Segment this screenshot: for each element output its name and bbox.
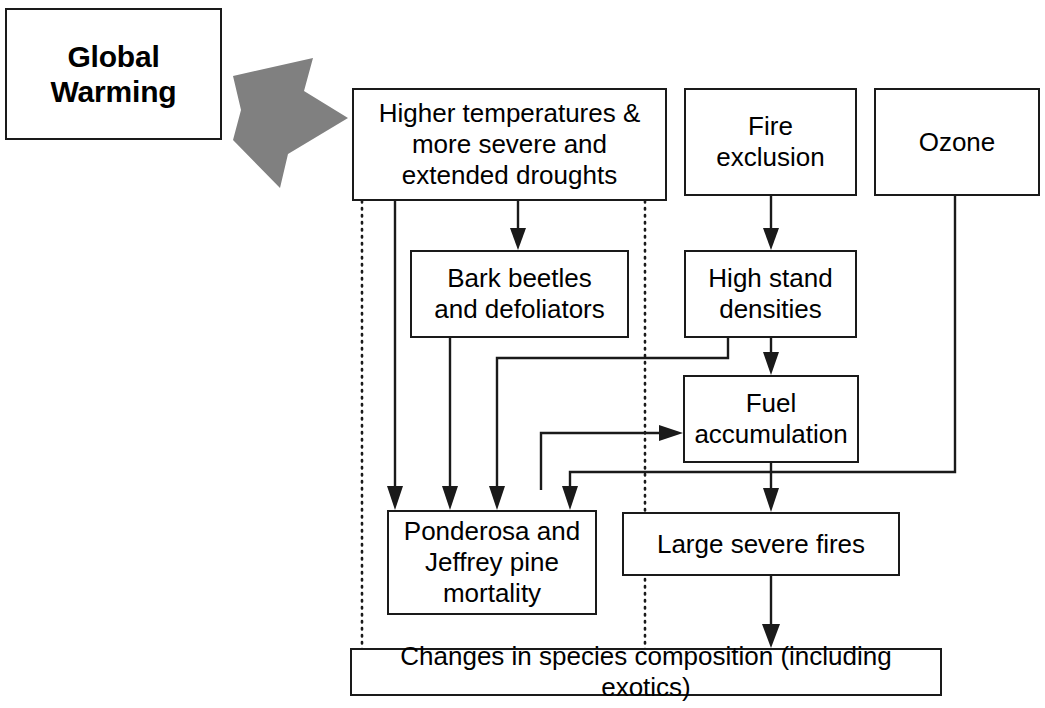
node-ponderosa-mortality[interactable]: Ponderosa and Jeffrey pine mortality <box>387 510 597 615</box>
node-fire-exclusion[interactable]: Fire exclusion <box>684 88 857 196</box>
node-global-warming-label: Global Warming <box>51 39 177 110</box>
node-bark-beetles-label: Bark beetles and defoliators <box>434 263 605 324</box>
node-fuel-accumulation-label: Fuel accumulation <box>694 388 847 449</box>
node-fire-exclusion-label: Fire exclusion <box>716 111 824 172</box>
node-large-severe-fires[interactable]: Large severe fires <box>622 512 900 576</box>
arrowhead-ponderosa-a <box>387 486 403 510</box>
node-species-composition-label: Changes in species composition (includin… <box>352 641 940 702</box>
block-arrow-icon <box>233 58 348 188</box>
node-species-composition[interactable]: Changes in species composition (includin… <box>350 648 942 696</box>
node-high-stand-densities-label: High stand densities <box>708 263 832 324</box>
arrowhead-barkbeetles <box>510 228 526 250</box>
node-global-warming[interactable]: Global Warming <box>5 8 222 140</box>
arrowhead-ponderosa-c <box>489 486 505 510</box>
node-higher-temperatures-label: Higher temperatures & more severe and ex… <box>379 98 641 190</box>
arrowhead-ponderosa-b <box>442 486 458 510</box>
arrowhead-ponderosa-d <box>562 486 578 510</box>
node-higher-temperatures[interactable]: Higher temperatures & more severe and ex… <box>352 88 667 201</box>
arrowhead-largefires <box>763 488 779 512</box>
node-large-severe-fires-label: Large severe fires <box>657 529 865 560</box>
node-fuel-accumulation[interactable]: Fuel accumulation <box>683 375 859 463</box>
node-bark-beetles[interactable]: Bark beetles and defoliators <box>410 250 629 338</box>
arrowhead-highstand <box>763 228 779 250</box>
node-ozone[interactable]: Ozone <box>874 88 1040 196</box>
node-ozone-label: Ozone <box>919 127 996 158</box>
node-high-stand-densities[interactable]: High stand densities <box>684 250 857 338</box>
flowchart-canvas: Global Warming Higher temperatures & mor… <box>0 0 1045 708</box>
node-ponderosa-mortality-label: Ponderosa and Jeffrey pine mortality <box>404 516 580 608</box>
arrowhead-fuel-accum-side <box>659 425 683 441</box>
arrowhead-fuel-accum-top <box>763 352 779 375</box>
